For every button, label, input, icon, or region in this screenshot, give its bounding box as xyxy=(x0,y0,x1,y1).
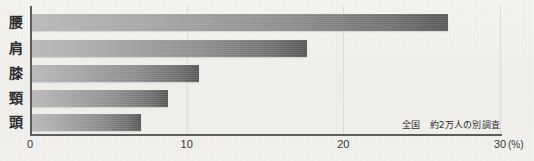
x-axis-line xyxy=(30,134,502,136)
y-axis-line xyxy=(30,6,32,135)
x-tick-label-30: 30 xyxy=(494,138,506,150)
bar-kata xyxy=(30,40,307,57)
category-label-koshi: 腰 xyxy=(4,14,28,31)
bar-chart-figure: 腰 肩 膝 頸 頭 全国 約2万人の別調査 0 10 20 30 (%) xyxy=(0,0,534,161)
bar-row xyxy=(30,40,307,57)
bar-atama xyxy=(30,114,141,131)
source-annotation: 全国 約2万人の別調査 xyxy=(402,118,500,131)
bar-row xyxy=(30,114,141,131)
x-axis-unit-label: (%) xyxy=(508,139,524,150)
category-label-atama: 頭 xyxy=(4,114,28,131)
category-label-hiza: 膝 xyxy=(4,65,28,82)
gridline-30 xyxy=(500,6,501,134)
bar-row xyxy=(30,90,168,107)
bar-kubi xyxy=(30,90,168,107)
category-label-kata: 肩 xyxy=(4,40,28,57)
bar-row xyxy=(30,14,448,31)
x-tick-label-10: 10 xyxy=(181,138,193,150)
bar-koshi xyxy=(30,14,448,31)
category-label-kubi: 頸 xyxy=(4,90,28,107)
x-tick-label-20: 20 xyxy=(337,138,349,150)
bar-hiza xyxy=(30,65,199,82)
bar-row xyxy=(30,65,199,82)
x-tick-label-0: 0 xyxy=(27,138,33,150)
